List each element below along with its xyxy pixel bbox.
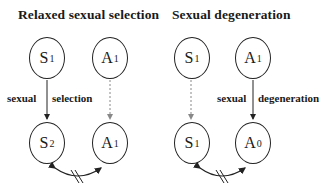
arrows-layer xyxy=(0,0,328,189)
